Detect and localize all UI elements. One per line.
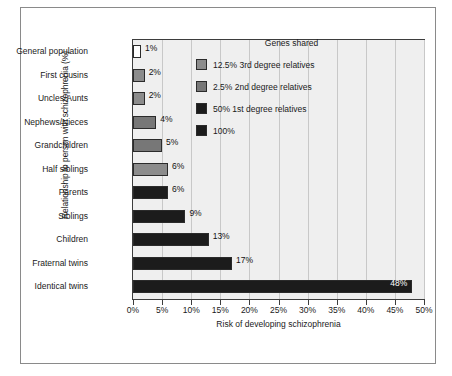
bar[interactable]	[133, 139, 162, 152]
bar-row[interactable]: 17%	[133, 252, 424, 276]
x-axis-title: Risk of developing schizophrenia	[132, 319, 425, 329]
legend-swatch	[196, 59, 207, 70]
legend-swatch	[196, 81, 207, 92]
legend-title: Genes shared	[204, 38, 379, 48]
bar-row[interactable]: 6%	[133, 181, 424, 205]
bar[interactable]	[133, 186, 168, 199]
category-label: First cousins	[0, 70, 88, 80]
category-label: Half siblings	[0, 164, 88, 174]
bar-value-label: 6%	[172, 161, 184, 171]
legend: Genes shared 12.5% 3rd degree relatives2…	[196, 38, 411, 136]
legend-item[interactable]: 12.5% 3rd degree relatives	[196, 59, 411, 70]
bar-row[interactable]: 9%	[133, 205, 424, 229]
bar[interactable]	[133, 69, 145, 82]
figure-frame: Relationship to person with schizophreni…	[20, 7, 436, 364]
category-label: Grandchildren	[0, 140, 88, 150]
category-label: Identical twins	[0, 281, 88, 291]
bar-value-label: 6%	[172, 184, 184, 194]
x-axis-tick-label: 50%	[404, 305, 444, 315]
category-label: Siblings	[0, 211, 88, 221]
bar-value-label: 2%	[149, 90, 161, 100]
bar-value-label: 17%	[236, 255, 253, 265]
gridline	[424, 40, 425, 299]
legend-items: 12.5% 3rd degree relatives2.5% 2nd degre…	[196, 59, 411, 136]
bar[interactable]	[133, 163, 168, 176]
legend-label: 12.5% 3rd degree relatives	[213, 60, 315, 70]
bar-row[interactable]: 6%	[133, 158, 424, 182]
legend-item[interactable]: 100%	[196, 125, 411, 136]
bar[interactable]	[133, 116, 156, 129]
category-label: General population	[0, 46, 88, 56]
bar-value-label: 4%	[160, 114, 172, 124]
bar[interactable]	[133, 280, 412, 293]
category-label: Children	[0, 234, 88, 244]
legend-swatch	[196, 103, 207, 114]
bar-value-label: 48%	[390, 278, 407, 288]
legend-item[interactable]: 50% 1st degree relatives	[196, 103, 411, 114]
bar-value-label: 13%	[213, 231, 230, 241]
legend-swatch	[196, 125, 207, 136]
category-label: Fraternal twins	[0, 258, 88, 268]
category-label: Nephews/Nieces	[0, 117, 88, 127]
bar-value-label: 2%	[149, 67, 161, 77]
bar-row[interactable]: 5%	[133, 134, 424, 158]
bar[interactable]	[133, 45, 141, 58]
bar-value-label: 5%	[166, 137, 178, 147]
bar-value-label: 1%	[145, 43, 157, 53]
category-label: Uncles/Aunts	[0, 93, 88, 103]
legend-label: 100%	[213, 126, 235, 136]
category-label: Parents	[0, 187, 88, 197]
bar-value-label: 9%	[189, 208, 201, 218]
legend-label: 50% 1st degree relatives	[213, 104, 307, 114]
bar-row[interactable]: 13%	[133, 228, 424, 252]
y-axis-title: Relationship to person with schizophreni…	[60, 35, 70, 235]
bar[interactable]	[133, 210, 185, 223]
bar-row[interactable]: 48%	[133, 275, 424, 299]
bar[interactable]	[133, 233, 209, 246]
legend-item[interactable]: 2.5% 2nd degree relatives	[196, 81, 411, 92]
legend-label: 2.5% 2nd degree relatives	[213, 82, 312, 92]
bar[interactable]	[133, 92, 145, 105]
bar[interactable]	[133, 257, 232, 270]
